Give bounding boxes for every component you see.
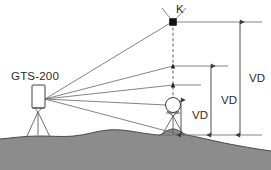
dimension-vd-large: VD [240, 22, 265, 135]
sight-line-upper [45, 66, 173, 99]
point-k-label: K [176, 3, 184, 15]
prism-circle [166, 98, 181, 113]
sight-lines-group [45, 22, 178, 134]
vd-large-label: VD [249, 72, 265, 84]
instrument-body [32, 85, 45, 108]
vd-medium-label: VD [221, 94, 237, 106]
tripod-legs-instrument [27, 112, 50, 137]
axis-tick-markers [171, 64, 175, 88]
dimension-vd-medium: VD [211, 66, 237, 135]
vd-small-label: VD [192, 109, 208, 121]
dimension-vd-small: VD [181, 100, 208, 135]
vertical-distance-diagram: VD VD VD GTS-2 [0, 0, 271, 170]
total-station-icon [27, 85, 50, 137]
diagram-canvas: VD VD VD GTS-2 [0, 0, 271, 170]
point-k-dot [170, 19, 177, 26]
instrument-mount [35, 108, 42, 112]
instrument-label: GTS-200 [11, 70, 59, 82]
